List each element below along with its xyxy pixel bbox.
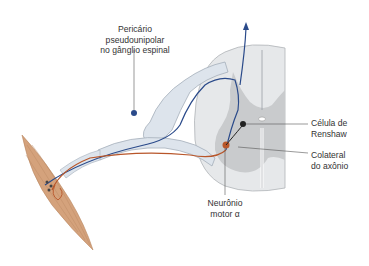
central-canal [259, 117, 266, 121]
label-pericario: Pericário pseudounipolar no gânglio espi… [90, 24, 180, 56]
muscle [22, 135, 93, 250]
motor-axon [52, 150, 226, 190]
pericario-cell-body [131, 110, 137, 116]
label-colateral: Colateral do axônio [311, 150, 348, 171]
arrow-up-icon [243, 22, 249, 30]
renshaw-cell-body [240, 121, 246, 127]
label-motor: Neurônio motor α [195, 198, 255, 219]
label-renshaw: Célula de Renshaw [311, 118, 347, 139]
